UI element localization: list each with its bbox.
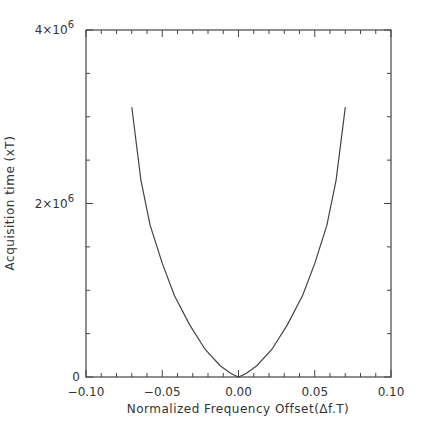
x-tick-labels: −0.10−0.050.000.050.10 [68,385,405,399]
y-tick-label: 4×106 [35,19,74,37]
data-line [132,107,345,377]
plot-frame [86,30,391,377]
y-tick-label: 0 [72,370,80,384]
y-tick-labels: 02×1064×106 [35,19,80,384]
x-tick-label: −0.10 [68,385,105,399]
axis-ticks [86,30,391,377]
x-tick-label: −0.05 [144,385,181,399]
x-axis-label: Normalized Frequency Offset(Δf.T) [127,402,349,416]
x-tick-label: 0.10 [378,385,405,399]
y-axis-label: Acquisition time (xT) [3,136,17,271]
x-tick-label: 0.05 [301,385,328,399]
plot-border [86,30,391,377]
y-tick-label: 2×106 [35,193,74,211]
x-tick-label: 0.00 [225,385,252,399]
chart: −0.10−0.050.000.050.10 02×1064×106 Norma… [0,0,426,430]
